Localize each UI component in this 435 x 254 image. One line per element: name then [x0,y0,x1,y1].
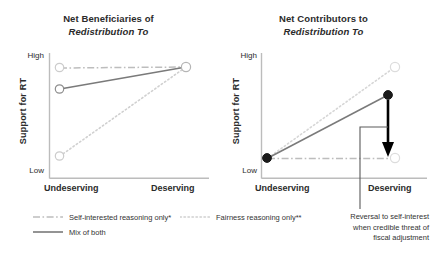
legend-label-fairness: Fairness reasoning only** [216,213,301,222]
reversal-callout-line2: when credible threat of [313,223,429,234]
legend-swatch-mix [33,229,63,235]
legend-swatch-self-interest [33,214,63,220]
reversal-callout: Reversal to self-interest when credible … [313,212,429,244]
series-line-mix-right [268,95,388,158]
marker-mix-undeserving-left [55,85,63,93]
panel-net-beneficiaries: Net Beneficiaries of Redistribution To S… [0,0,217,200]
legend-swatch-fairness [180,214,210,220]
series-line-fairness-left [60,67,186,156]
plot-area-left [0,0,217,200]
marker-origin-undeserving-right [263,154,272,163]
marker-self-interest-undeserving-left [55,63,63,71]
series-line-self-interest-left [60,67,186,68]
series-line-fairness-right [268,67,395,158]
series-line-mix-left [60,67,186,89]
reversal-callout-line1: Reversal to self-interest [313,212,429,223]
legend-label-self-interest: Self-interested reasoning only* [69,213,171,222]
marker-self-interest-deserving-right [390,153,399,162]
marker-converged-deserving-left [181,62,190,71]
legend-label-mix: Mix of both [69,228,106,237]
legend: Self-interested reasoning only* Fairness… [0,200,290,254]
marker-fairness-undeserving-left [55,152,63,160]
plot-area-right [215,0,432,200]
panel-net-contributors: Net Contributors to Redistribution To Su… [215,0,432,200]
marker-fairness-deserving-right [390,62,399,71]
marker-mix-deserving-right [384,91,393,100]
reversal-callout-line3: fiscal adjustment [313,233,429,244]
figure: Net Beneficiaries of Redistribution To S… [0,0,435,254]
